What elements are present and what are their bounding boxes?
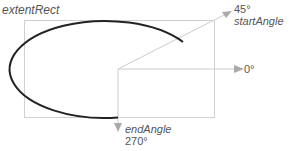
zero-angle-label: 0° [244,63,255,75]
start-angle-ray [118,14,226,69]
end-angle-label: endAngle [125,123,172,135]
start-angle-label: startAngle [234,15,284,27]
zero-angle-arrowhead [234,65,244,73]
end-angle-arrowhead [114,123,122,132]
extent-rect-label: extentRect [2,4,59,16]
end-angle-value: 270° [125,135,148,147]
start-angle-arrowhead [222,11,232,18]
start-angle-value: 45° [234,3,251,15]
